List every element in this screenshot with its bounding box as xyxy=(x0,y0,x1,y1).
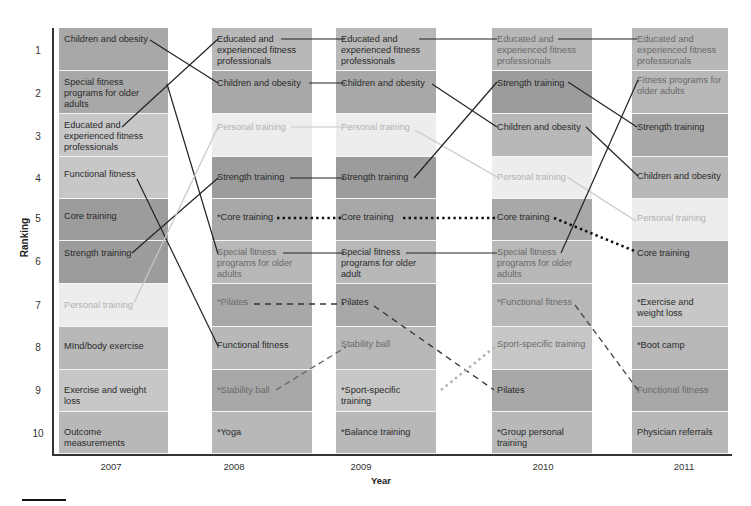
cell-2010-rank-9: Pilates xyxy=(492,370,592,412)
cell-2011-rank-9: Functional fitness xyxy=(632,370,728,412)
cell-2011-rank-7: *Exercise and weight loss xyxy=(632,284,728,327)
cell-2011-rank-1: Educated and experienced fitness profess… xyxy=(632,28,728,71)
cell-2010-rank-6: Special fitness programs for older adult… xyxy=(492,241,592,284)
cell-2011-rank-2: Fitness programs for older adults xyxy=(632,71,728,114)
cell-2008-rank-2: Children and obesity xyxy=(212,71,312,114)
cell-2010-rank-8: Sport-specific training xyxy=(492,327,592,370)
year-label-2009: 2009 xyxy=(331,461,391,472)
rank-label-3: 3 xyxy=(28,131,48,142)
cell-2011-rank-8: *Boot camp xyxy=(632,327,728,370)
cell-2007-rank-1: Children and obesity xyxy=(59,28,168,71)
cell-2007-rank-3: Educated and experienced fitness profess… xyxy=(59,114,168,157)
cell-2008-rank-4: Strength training xyxy=(212,157,312,199)
rank-label-2: 2 xyxy=(28,88,48,99)
x-axis-line xyxy=(52,454,732,456)
line-children-09-10 xyxy=(432,84,497,127)
cell-2011-rank-6: Core training xyxy=(632,241,728,284)
cell-2009-rank-3: Personal training xyxy=(336,114,436,157)
cell-2007-rank-10: Outcome measurements xyxy=(59,412,168,454)
decorative-rule xyxy=(22,499,66,501)
cell-2011-rank-10: Physician referrals xyxy=(632,412,728,454)
rank-label-6: 6 xyxy=(28,256,48,267)
year-label-2010: 2010 xyxy=(513,461,573,472)
cell-2010-rank-2: Strength training xyxy=(492,71,592,114)
cell-2008-rank-5: *Core training xyxy=(212,199,312,241)
cell-2010-rank-3: Children and obesity xyxy=(492,114,592,157)
line-special-fitness-07-08 xyxy=(167,84,218,254)
rank-label-4: 4 xyxy=(28,173,48,184)
line-children-10-11 xyxy=(586,127,638,176)
cell-2011-rank-3: Strength training xyxy=(632,114,728,157)
cell-2007-rank-4: Functional fitness xyxy=(59,157,168,199)
fitness-trends-ranking-chart: Children and obesity Special fitness pro… xyxy=(0,0,751,506)
year-label-2007: 2007 xyxy=(81,461,141,472)
cell-2010-rank-7: *Functional fitness xyxy=(492,284,592,327)
cell-2009-rank-8: Stability ball xyxy=(336,327,436,370)
cell-2007-rank-2: Special fitness programs for older adult… xyxy=(59,71,168,114)
cell-2009-rank-1: Educated and experienced fitness profess… xyxy=(336,28,436,71)
rank-label-5: 5 xyxy=(28,213,48,224)
cell-2009-rank-9: *Sport-specific training xyxy=(336,370,436,412)
rank-label-7: 7 xyxy=(28,300,48,311)
cell-2010-rank-5: Core training xyxy=(492,199,592,241)
rank-label-10: 10 xyxy=(28,428,48,439)
cell-2010-rank-10: *Group personal training xyxy=(492,412,592,454)
cell-2007-rank-5: Core training xyxy=(59,199,168,241)
cell-2008-rank-1: Educated and experienced fitness profess… xyxy=(212,28,312,71)
rank-label-9: 9 xyxy=(28,385,48,396)
cell-2010-rank-4: Personal training xyxy=(492,157,592,199)
cell-2009-rank-2: Children and obesity xyxy=(336,71,436,114)
year-label-2008: 2008 xyxy=(204,461,264,472)
cell-2008-rank-7: *Pilates xyxy=(212,284,312,327)
line-sport-specific-09-10 xyxy=(441,346,496,390)
rank-label-1: 1 xyxy=(28,45,48,56)
x-axis-label: Year xyxy=(361,475,401,486)
cell-2009-rank-4: Strength training xyxy=(336,157,436,199)
cell-2008-rank-9: *Stability ball xyxy=(212,370,312,412)
cell-2009-rank-10: *Balance training xyxy=(336,412,436,454)
cell-2008-rank-10: *Yoga xyxy=(212,412,312,454)
cell-2009-rank-6: Special fitness programs for older adult xyxy=(336,241,436,284)
cell-2008-rank-8: Functional fitness xyxy=(212,327,312,370)
cell-2011-rank-4: Children and obesity xyxy=(632,157,728,199)
y-axis-line xyxy=(52,28,54,455)
year-label-2011: 2011 xyxy=(654,461,714,472)
cell-2007-rank-9: Exercise and weight loss xyxy=(59,370,168,412)
rank-label-8: 8 xyxy=(28,342,48,353)
cell-2009-rank-5: Core training xyxy=(336,199,436,241)
cell-2010-rank-1: Educated and experienced fitness profess… xyxy=(492,28,592,71)
cell-2008-rank-6: Special fitness programs for older adult… xyxy=(212,241,312,284)
cell-2007-rank-7: Personal training xyxy=(59,284,168,327)
cell-2008-rank-3: Personal training xyxy=(212,114,312,157)
cell-2009-rank-7: Pilates xyxy=(336,284,436,327)
cell-2011-rank-5: Personal training xyxy=(632,199,728,241)
cell-2007-rank-6: Strength training xyxy=(59,241,168,284)
cell-2007-rank-8: MInd/body exercise xyxy=(59,327,168,370)
